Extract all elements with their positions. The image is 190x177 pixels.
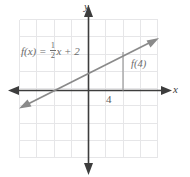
equation-suffix: x + 2 xyxy=(56,45,79,57)
graph-canvas xyxy=(0,0,190,177)
equation-label: f(x) = 12x + 2 xyxy=(21,41,80,59)
f-of-4-label: f(4) xyxy=(131,59,146,70)
x-axis-left-arrowhead xyxy=(8,86,19,95)
f-of-4-text: f(4) xyxy=(131,58,146,69)
y-axis-bottom-arrowhead xyxy=(84,163,93,175)
coordinate-graph-figure: f(x) = 12x + 2 f(4) 4 x y xyxy=(0,0,190,177)
x-axis xyxy=(8,86,172,95)
function-line-left-arrowhead xyxy=(19,100,32,109)
equation-prefix: f(x) = xyxy=(21,45,49,57)
y-axis-label-text: y xyxy=(84,0,89,12)
x-tick-label-4: 4 xyxy=(106,94,112,105)
fraction-denominator: 2 xyxy=(50,51,56,60)
x-axis-label-text: x xyxy=(173,83,178,95)
one-half-fraction: 12 xyxy=(50,41,56,59)
x-axis-right-arrowhead xyxy=(161,86,172,95)
x-axis-label: x xyxy=(173,84,178,95)
y-axis-label: y xyxy=(84,1,89,12)
